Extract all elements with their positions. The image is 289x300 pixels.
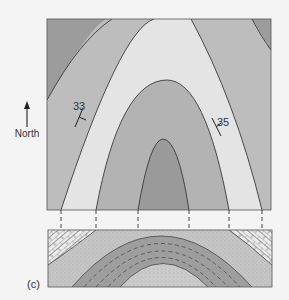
panel-label: (c) (27, 278, 40, 290)
north-label: North (15, 128, 39, 139)
geologic-figure: 33 35 North (0, 0, 289, 300)
cross-section (48, 230, 272, 287)
projection-lines (61, 210, 262, 230)
north-arrow-icon (24, 101, 30, 109)
north-arrow: North (15, 101, 39, 139)
dip-label-33: 33 (73, 100, 85, 112)
dip-label-35: 35 (217, 116, 229, 128)
